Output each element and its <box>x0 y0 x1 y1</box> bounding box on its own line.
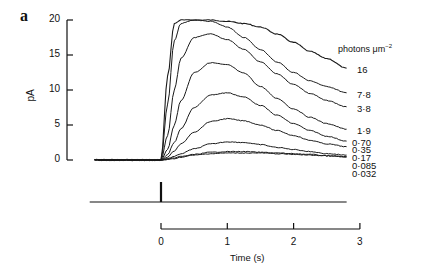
response-trace-1_9 <box>95 63 347 161</box>
legend-units-label: photons μm−2 <box>338 43 392 54</box>
y-tick-label: 0 <box>38 153 60 164</box>
series-label: 16 <box>357 64 368 75</box>
panel-label: a <box>20 7 28 25</box>
x-tick-label: 2 <box>284 236 304 247</box>
response-trace-0_17 <box>95 142 347 161</box>
series-label: 3·8 <box>357 103 371 114</box>
y-axis-label: pA <box>25 89 36 101</box>
x-axis-label: Time (s) <box>230 252 264 263</box>
response-trace-7_8 <box>95 20 347 161</box>
y-tick-label: 5 <box>38 118 60 129</box>
y-tick-label: 15 <box>38 48 60 59</box>
series-label: 7·8 <box>357 89 371 100</box>
x-tick-label: 3 <box>350 236 370 247</box>
response-trace-3_8 <box>95 34 347 161</box>
y-tick-label: 20 <box>38 13 60 24</box>
x-tick-label: 1 <box>217 236 237 247</box>
response-trace-16 <box>95 20 347 161</box>
y-tick-label: 10 <box>38 83 60 94</box>
x-tick-label: 0 <box>151 236 171 247</box>
series-label: 1·9 <box>357 125 371 136</box>
response-trace-0_70 <box>95 93 347 161</box>
series-label: 0·032 <box>352 168 376 179</box>
